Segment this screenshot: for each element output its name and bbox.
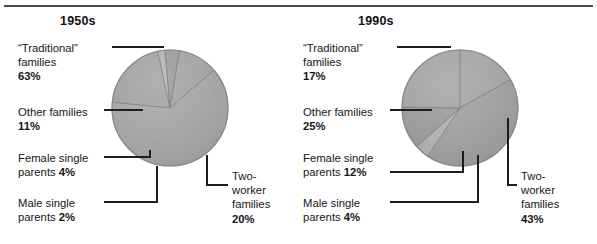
callout-line: Two- xyxy=(521,169,559,183)
callout-line: worker xyxy=(232,183,270,197)
callout-line: Two- xyxy=(232,169,270,183)
callout-male-single-parents-1950s: Male singleparents 2% xyxy=(18,196,75,224)
pie-rim xyxy=(402,50,518,166)
panel-title-1990s: 1990s xyxy=(358,14,394,28)
pie-slice xyxy=(112,51,170,108)
leader-twoworker-1950s xyxy=(207,155,228,185)
pie-slice xyxy=(460,50,511,108)
pie-slice xyxy=(170,51,214,108)
callout-percent: parents 4% xyxy=(18,165,88,179)
pie-slice xyxy=(158,50,170,108)
callout-line: Other families xyxy=(18,105,88,119)
pie-base-disc xyxy=(112,50,228,166)
pie-slice xyxy=(428,80,518,166)
callout-other-families-1950s: Other families11% xyxy=(18,105,88,133)
pie-graphics-layer xyxy=(0,0,597,244)
panel-title-1950s: 1950s xyxy=(60,14,96,28)
callout-traditional-families-1950s: “Traditional”families63% xyxy=(18,41,78,84)
callout-line: families xyxy=(232,197,270,211)
pie-slice xyxy=(417,108,460,156)
callout-line: families xyxy=(521,197,559,211)
callout-female-single-parents-1950s: Female singleparents 4% xyxy=(18,151,88,179)
callout-percent: 43% xyxy=(521,212,559,226)
leader-male-1950s xyxy=(104,166,157,202)
callout-percent: parents 12% xyxy=(303,165,373,179)
callout-line: Other families xyxy=(303,105,373,119)
pie-slice xyxy=(402,107,460,147)
callout-female-single-parents-1990s: Female singleparents 12% xyxy=(303,151,373,179)
pie-slices-1990s xyxy=(402,50,518,166)
callout-percent: 17% xyxy=(303,69,363,83)
callout-percent: parents 4% xyxy=(303,210,360,224)
top-divider-rule xyxy=(4,5,593,7)
callout-line: Male single xyxy=(303,196,360,210)
callout-two-worker-families-1990s: Two-workerfamilies43% xyxy=(521,169,559,226)
callout-percent: 20% xyxy=(232,212,270,226)
callout-line: Male single xyxy=(18,196,75,210)
callout-percent: 11% xyxy=(18,119,88,133)
pie-chart-figure: 1950s 1990s xyxy=(0,0,597,244)
callout-line: “Traditional” xyxy=(303,41,363,55)
callout-traditional-families-1990s: “Traditional”families17% xyxy=(303,41,363,84)
pie-slice xyxy=(402,50,460,108)
pie-slice xyxy=(165,50,180,108)
pie-base-disc xyxy=(402,50,518,166)
callout-percent: 63% xyxy=(18,69,78,83)
callout-line: families xyxy=(18,55,78,69)
leader-twoworker-1990s xyxy=(508,118,517,185)
callout-percent: parents 2% xyxy=(18,210,75,224)
leader-female-1990s xyxy=(390,151,463,172)
callout-male-single-parents-1990s: Male singleparents 4% xyxy=(303,196,360,224)
callout-line: worker xyxy=(521,183,559,197)
callout-line: “Traditional” xyxy=(18,41,78,55)
callout-line: Female single xyxy=(18,151,88,165)
callout-two-worker-families-1950s: Two-workerfamilies20% xyxy=(232,169,270,226)
callout-line: families xyxy=(303,55,363,69)
pie-rim xyxy=(112,50,228,166)
pie-slices-1950s xyxy=(112,50,228,166)
leader-female-1950s xyxy=(104,150,150,157)
leader-male-1990s xyxy=(390,155,478,202)
callout-other-families-1990s: Other families25% xyxy=(303,105,373,133)
callout-line: Female single xyxy=(303,151,373,165)
callout-percent: 25% xyxy=(303,119,373,133)
pie-slice xyxy=(112,70,228,166)
